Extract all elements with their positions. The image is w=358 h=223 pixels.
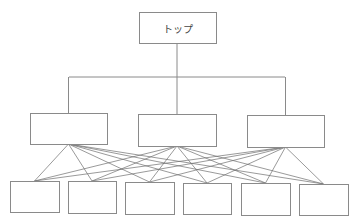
- middle-node-box: [139, 115, 217, 147]
- link-line: [35, 144, 69, 181]
- top-node-label: トップ: [139, 21, 216, 36]
- bottom-node-box: [11, 182, 60, 213]
- connector-lines: [69, 43, 286, 115]
- link-line: [286, 147, 324, 184]
- bottom-node-box: [69, 182, 117, 214]
- bottom-node-box: [300, 185, 349, 216]
- middle-node-box: [31, 114, 108, 145]
- bottom-node-box: [184, 184, 232, 215]
- link-line: [150, 147, 286, 182]
- bottom-node-box: [242, 184, 291, 216]
- middle-node-box: [248, 116, 325, 148]
- link-line: [69, 144, 324, 184]
- node-boxes: [11, 13, 349, 216]
- many-to-many-links: [35, 144, 324, 184]
- link-line: [177, 146, 207, 183]
- bottom-node-box: [126, 183, 175, 215]
